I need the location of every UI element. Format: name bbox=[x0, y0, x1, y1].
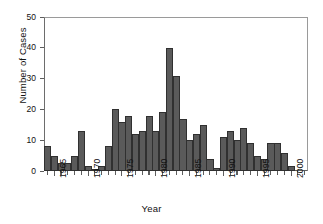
x-tick bbox=[108, 171, 109, 175]
x-tick bbox=[243, 171, 244, 175]
x-tick bbox=[182, 171, 183, 175]
x-tick-label: 1985 bbox=[193, 159, 203, 178]
x-tick bbox=[216, 171, 217, 175]
x-tick-label: 1980 bbox=[159, 159, 169, 178]
x-tick bbox=[54, 171, 55, 176]
y-tick-label: 0 bbox=[0, 167, 36, 176]
x-tick bbox=[176, 171, 177, 175]
y-tick-label: 10 bbox=[0, 136, 36, 145]
bar-chart: Number of Cases 01020304050 196519701975… bbox=[0, 0, 323, 224]
x-tick bbox=[88, 171, 89, 176]
x-tick bbox=[189, 171, 190, 176]
x-tick bbox=[257, 171, 258, 176]
x-tick bbox=[115, 171, 116, 175]
y-tick-label: 20 bbox=[0, 105, 36, 114]
x-axis-title: Year bbox=[44, 203, 259, 214]
y-tick bbox=[40, 78, 44, 79]
x-tick-label: 1995 bbox=[261, 159, 271, 178]
y-tick-label: 30 bbox=[0, 74, 36, 83]
x-tick bbox=[250, 171, 251, 175]
x-tick-label: 2000 bbox=[295, 159, 305, 178]
x-tick bbox=[121, 171, 122, 176]
x-tick bbox=[291, 171, 292, 176]
x-tick bbox=[142, 171, 143, 175]
x-tick bbox=[284, 171, 285, 175]
bar bbox=[78, 131, 85, 171]
x-tick bbox=[277, 171, 278, 175]
x-tick-label: 1970 bbox=[92, 159, 102, 178]
bars-layer bbox=[44, 17, 308, 171]
x-tick bbox=[148, 171, 149, 175]
y-tick bbox=[40, 17, 44, 18]
x-tick bbox=[81, 171, 82, 175]
x-tick bbox=[223, 171, 224, 176]
x-tick bbox=[209, 171, 210, 175]
y-tick bbox=[40, 47, 44, 48]
x-tick bbox=[155, 171, 156, 176]
x-tick bbox=[74, 171, 75, 175]
x-tick-label: 1965 bbox=[58, 159, 68, 178]
x-tick-label: 1990 bbox=[227, 159, 237, 178]
x-tick bbox=[47, 171, 48, 175]
x-tick-label: 1975 bbox=[125, 159, 135, 178]
y-tick-label: 40 bbox=[0, 43, 36, 52]
y-tick bbox=[40, 171, 44, 172]
x-tick bbox=[135, 171, 136, 175]
y-tick-label: 50 bbox=[0, 13, 36, 22]
y-tick bbox=[40, 109, 44, 110]
y-tick bbox=[40, 140, 44, 141]
